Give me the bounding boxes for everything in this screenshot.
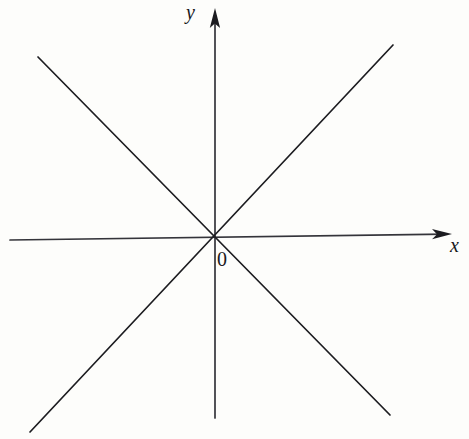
y-axis-label: y xyxy=(186,2,195,22)
x-axis-line xyxy=(10,234,446,240)
graph-canvas xyxy=(0,0,469,439)
coordinate-plane-figure: y x 0 xyxy=(0,0,469,439)
origin-label: 0 xyxy=(217,249,227,269)
x-axis-label: x xyxy=(450,235,459,255)
